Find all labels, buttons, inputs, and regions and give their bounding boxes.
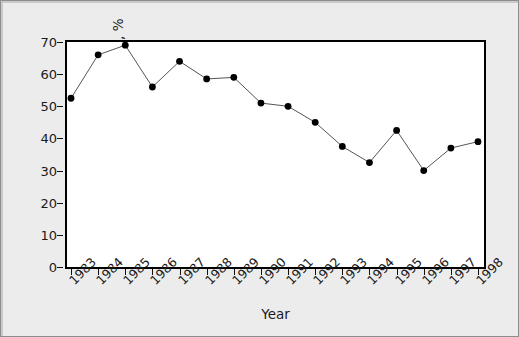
data-point-marker — [203, 76, 210, 83]
y-tick-mark — [57, 106, 63, 107]
data-point-marker — [366, 159, 373, 166]
data-point-marker — [68, 95, 75, 102]
y-tick-mark — [57, 267, 63, 268]
data-point-marker — [230, 74, 237, 81]
y-tick-mark — [57, 171, 63, 172]
data-point-marker — [475, 138, 482, 145]
y-tick-label: 40 — [31, 131, 57, 146]
y-tick-label: 30 — [31, 163, 57, 178]
y-tick-label: 70 — [31, 35, 57, 50]
chart-figure: Dying patients with ARDS, % 010203040506… — [0, 0, 519, 337]
y-tick-label: 0 — [31, 260, 57, 275]
data-point-marker — [420, 167, 427, 174]
plot-inner — [67, 42, 484, 267]
y-tick-mark — [57, 235, 63, 236]
data-point-marker — [285, 103, 292, 110]
y-tick-label: 50 — [31, 99, 57, 114]
data-point-marker — [149, 84, 156, 91]
y-tick-label: 20 — [31, 195, 57, 210]
plot-area — [65, 40, 486, 269]
data-point-marker — [393, 127, 400, 134]
series-polyline — [71, 45, 478, 170]
y-tick-label: 10 — [31, 227, 57, 242]
data-point-marker — [312, 119, 319, 126]
y-tick-label: 60 — [31, 67, 57, 82]
data-point-marker — [95, 51, 102, 58]
y-tick-mark — [57, 74, 63, 75]
y-tick-mark — [57, 203, 63, 204]
data-point-marker — [258, 100, 265, 107]
x-axis-title: Year — [65, 306, 486, 322]
data-point-marker — [176, 58, 183, 65]
data-point-marker — [339, 143, 346, 150]
data-series-line — [67, 42, 484, 267]
data-point-marker — [122, 42, 129, 49]
y-tick-mark — [57, 42, 63, 43]
y-tick-mark — [57, 138, 63, 139]
data-point-marker — [447, 145, 454, 152]
